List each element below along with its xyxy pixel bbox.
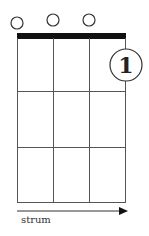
finger-marker: 1 xyxy=(110,49,142,81)
open-string-icon xyxy=(47,14,59,26)
finger-number: 1 xyxy=(118,52,133,78)
open-string-markers xyxy=(11,14,95,29)
open-string-icon xyxy=(83,14,95,26)
nut xyxy=(17,33,126,39)
chord-diagram: 1 xyxy=(0,0,149,236)
strum-label: strum xyxy=(21,214,51,225)
open-string-icon xyxy=(11,17,23,29)
arrow-right-icon xyxy=(119,207,128,215)
